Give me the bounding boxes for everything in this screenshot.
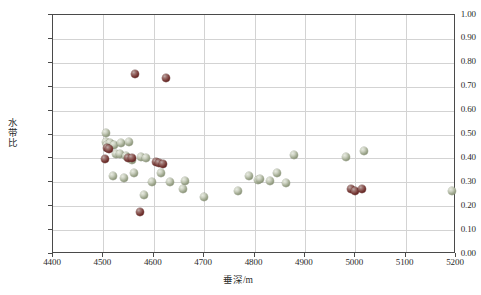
data-point bbox=[342, 153, 350, 161]
y-tick-mark bbox=[48, 86, 52, 87]
data-point bbox=[125, 138, 133, 146]
y-tick-mark bbox=[48, 157, 52, 158]
gridline-vertical bbox=[406, 15, 407, 252]
data-point bbox=[282, 179, 290, 187]
data-point bbox=[162, 74, 170, 82]
data-point bbox=[101, 155, 109, 163]
data-point bbox=[128, 154, 136, 162]
gridline-horizontal bbox=[53, 87, 454, 88]
y-tick-label: 0.30 bbox=[430, 177, 476, 186]
data-point bbox=[102, 129, 110, 137]
data-point bbox=[290, 151, 298, 159]
data-point bbox=[109, 172, 117, 180]
y-tick-mark bbox=[48, 62, 52, 63]
data-point bbox=[256, 175, 264, 183]
x-tick-mark bbox=[304, 253, 305, 257]
data-point bbox=[273, 169, 281, 177]
y-tick-mark bbox=[48, 110, 52, 111]
data-point bbox=[140, 191, 148, 199]
y-tick-label: 0.20 bbox=[430, 201, 476, 210]
gridline-horizontal bbox=[53, 158, 454, 159]
y-tick-label: 0.70 bbox=[430, 81, 476, 90]
data-point bbox=[120, 174, 128, 182]
plot-area bbox=[52, 14, 455, 253]
y-tick-label: 0.80 bbox=[430, 57, 476, 66]
data-point bbox=[181, 177, 189, 185]
y-tick-mark bbox=[48, 14, 52, 15]
gridline-vertical bbox=[204, 15, 205, 252]
data-point bbox=[266, 177, 274, 185]
gridline-horizontal bbox=[53, 135, 454, 136]
y-tick-mark bbox=[48, 38, 52, 39]
gridlines bbox=[53, 15, 454, 252]
data-point bbox=[245, 172, 253, 180]
x-axis-label: 垂深/m bbox=[0, 272, 476, 286]
y-tick-label: 0.60 bbox=[430, 105, 476, 114]
data-point bbox=[130, 169, 138, 177]
x-tick-mark bbox=[153, 253, 154, 257]
gridline-vertical bbox=[255, 15, 256, 252]
data-point bbox=[105, 145, 113, 153]
gridline-horizontal bbox=[53, 206, 454, 207]
y-tick-mark bbox=[48, 205, 52, 206]
y-tick-label: 1.00 bbox=[430, 10, 476, 19]
data-point bbox=[179, 185, 187, 193]
y-tick-mark bbox=[48, 181, 52, 182]
data-point bbox=[360, 147, 368, 155]
x-tick-mark bbox=[102, 253, 103, 257]
y-tick-label: 0.50 bbox=[430, 129, 476, 138]
data-point bbox=[117, 139, 125, 147]
data-point bbox=[148, 178, 156, 186]
data-point bbox=[142, 154, 150, 162]
gridline-horizontal bbox=[53, 111, 454, 112]
gridline-vertical bbox=[305, 15, 306, 252]
gridline-horizontal bbox=[53, 39, 454, 40]
y-tick-label: 0.10 bbox=[430, 225, 476, 234]
y-tick-label: 0.40 bbox=[430, 153, 476, 162]
y-tick-mark bbox=[48, 134, 52, 135]
x-tick-label: 5200 bbox=[425, 257, 481, 267]
data-point bbox=[136, 208, 144, 216]
gridline-horizontal bbox=[53, 230, 454, 231]
data-point bbox=[234, 187, 242, 195]
gridline-vertical bbox=[355, 15, 356, 252]
y-tick-mark bbox=[48, 229, 52, 230]
y-axis-label: 水带比 bbox=[6, 118, 18, 148]
gridline-horizontal bbox=[53, 63, 454, 64]
x-tick-mark bbox=[354, 253, 355, 257]
data-point bbox=[157, 169, 165, 177]
data-point bbox=[131, 70, 139, 78]
data-point bbox=[159, 160, 167, 168]
y-tick-label: 0.90 bbox=[430, 33, 476, 42]
data-point bbox=[200, 193, 208, 201]
x-tick-mark bbox=[455, 253, 456, 257]
x-tick-mark bbox=[52, 253, 53, 257]
gridline-vertical bbox=[154, 15, 155, 252]
x-tick-mark bbox=[203, 253, 204, 257]
data-point bbox=[358, 185, 366, 193]
x-tick-mark bbox=[254, 253, 255, 257]
data-point bbox=[166, 178, 174, 186]
x-tick-mark bbox=[405, 253, 406, 257]
data-point bbox=[448, 187, 456, 195]
